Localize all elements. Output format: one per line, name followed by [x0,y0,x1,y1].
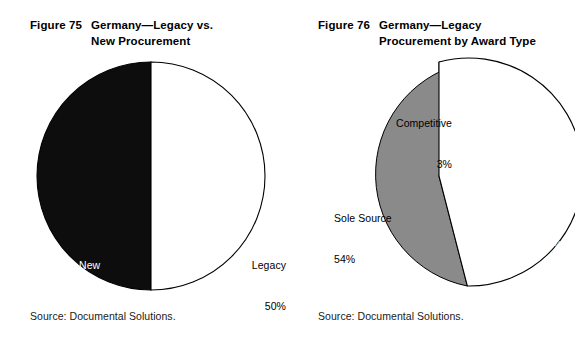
pie-chart-76: Competitive 3% Multinational 43% Sole So… [324,61,554,291]
pie-label-competitive-value: 3% [346,158,452,172]
pie-label-sole-source-name: Sole Source [334,212,392,226]
pie-label-multinational-name: Multinational [424,198,562,212]
figure-76-title: Germany—Legacy Procurement by Award Type [379,18,561,49]
figure-75-title: Germany—Legacy vs. New Procurement [91,18,273,49]
figure-76-title-line2: Procurement by Award Type [379,35,536,47]
pie-label-legacy-name: Legacy [186,259,286,273]
pie-label-new-name: New [79,259,100,273]
pie-label-legacy: Legacy 50% [186,232,286,337]
figure-75-number: Figure 75 [30,18,82,34]
pie-label-multinational: Multinational 43% [424,171,562,279]
figure-76-title-line1: Germany—Legacy [379,19,481,31]
figure-76-number: Figure 76 [318,18,370,34]
pie-chart-75: New 50% Legacy 50% [36,61,266,291]
figure-75-heading: Figure 75 Germany—Legacy vs. New Procure… [30,18,273,49]
figure-75-source: Source: Documental Solutions. [30,309,176,323]
pie-label-sole-source-value: 54% [334,253,392,267]
figure-76-heading: Figure 76 Germany—Legacy Procurement by … [318,18,561,49]
figure-75-title-line2: New Procurement [91,35,190,47]
pie-label-multinational-value: 43% [424,239,562,253]
figure-panel-75: Figure 75 Germany—Legacy vs. New Procure… [0,0,287,337]
pie-label-competitive-name: Competitive [346,117,452,131]
figure-76-source: Source: Documental Solutions. [318,309,464,323]
pie-label-legacy-value: 50% [186,300,286,314]
figure-75-title-line1: Germany—Legacy vs. [91,19,213,31]
figure-panel-76: Figure 76 Germany—Legacy Procurement by … [288,0,575,337]
pie-label-sole-source: Sole Source 54% [334,185,392,293]
